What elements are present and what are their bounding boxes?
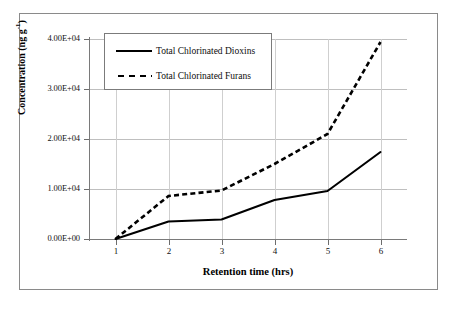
x-axis-title: Retention time (hrs): [89, 266, 407, 277]
legend-item-dioxins: Total Chlorinated Dioxins: [105, 41, 271, 61]
chart-figure: 0.00E+001.00E+042.00E+043.00E+044.00E+04…: [0, 0, 455, 309]
legend-swatch-dashed-line-icon: [116, 71, 152, 81]
chart-legend: Total Chlorinated Dioxins Total Chlorina…: [104, 33, 272, 90]
y-axis-title: Concentration (ng g-1): [16, 3, 27, 133]
legend-label-furans: Total Chlorinated Furans: [156, 71, 251, 82]
legend-item-furans: Total Chlorinated Furans: [105, 66, 271, 86]
y-axis-title-close: ): [16, 20, 27, 23]
y-axis-title-text: Concentration (ng g: [16, 29, 27, 115]
legend-label-dioxins: Total Chlorinated Dioxins: [156, 46, 255, 57]
legend-swatch-solid-line-icon: [116, 46, 152, 56]
series-line-dioxins: [116, 152, 381, 239]
y-axis-title-exponent: -1: [14, 23, 22, 29]
